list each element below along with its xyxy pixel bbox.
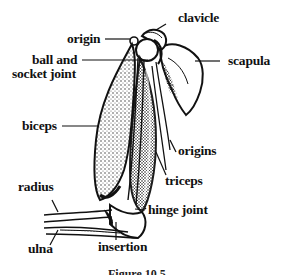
label-ulna: ulna	[28, 242, 53, 256]
leader-origins	[170, 140, 176, 152]
label-scapula: scapula	[228, 54, 270, 68]
arm-muscle-diagram: clavicle origin ball and socket joint sc…	[0, 0, 285, 275]
label-clavicle: clavicle	[178, 11, 219, 25]
leader-hinge	[145, 208, 146, 209]
label-ball-and-socket-line1: ball and	[32, 53, 77, 67]
label-ball-and-socket-line2: socket joint	[12, 67, 76, 81]
arm-illustration	[0, 0, 285, 275]
leader-radius	[52, 200, 58, 212]
label-origin: origin	[67, 32, 100, 46]
leader-clavicle	[156, 24, 166, 30]
scapula-bone	[160, 44, 203, 115]
label-hinge-joint: hinge joint	[148, 203, 208, 217]
figure-caption: Figure 10.5	[108, 267, 166, 275]
label-origins: origins	[178, 144, 216, 158]
label-insertion: insertion	[98, 240, 147, 254]
biceps-muscle	[94, 44, 135, 200]
label-biceps: biceps	[22, 119, 57, 133]
label-triceps: triceps	[165, 174, 203, 188]
label-radius: radius	[18, 180, 54, 194]
